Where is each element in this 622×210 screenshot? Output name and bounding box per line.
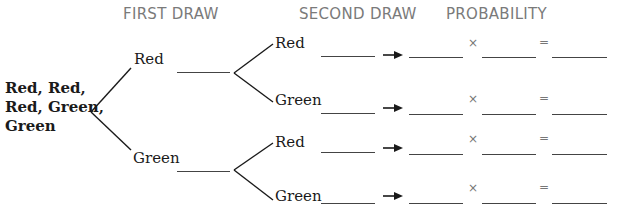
second-draw-blank[interactable] xyxy=(321,152,375,153)
arrow-right-icon xyxy=(383,144,403,152)
probability-first-blank[interactable] xyxy=(409,114,463,115)
probability-tree-diagram: FIRST DRAW SECOND DRAW PROBABILITY Red, … xyxy=(0,0,622,210)
equals-sign: = xyxy=(539,35,549,49)
probability-second-blank[interactable] xyxy=(482,203,536,204)
arrow-right-icon xyxy=(383,51,403,59)
second-draw-green-label: Green xyxy=(275,187,322,205)
probability-result-blank[interactable] xyxy=(552,154,607,155)
first-draw-green-blank[interactable] xyxy=(177,171,230,172)
second-draw-blank[interactable] xyxy=(321,113,375,114)
second-draw-green-label: Green xyxy=(275,91,322,109)
multiply-sign: × xyxy=(468,132,478,146)
first-draw-red-blank[interactable] xyxy=(177,72,230,73)
branch-red-to-red xyxy=(234,44,273,73)
probability-second-blank[interactable] xyxy=(482,57,536,58)
probability-first-blank[interactable] xyxy=(409,57,463,58)
probability-first-blank[interactable] xyxy=(409,154,463,155)
second-draw-red-label: Red xyxy=(275,34,305,52)
multiply-sign: × xyxy=(468,36,478,50)
branch-green-to-green xyxy=(234,170,273,200)
equals-sign: = xyxy=(539,91,549,105)
probability-result-blank[interactable] xyxy=(552,114,607,115)
probability-second-blank[interactable] xyxy=(482,114,536,115)
multiply-sign: × xyxy=(468,181,478,195)
equals-sign: = xyxy=(539,180,549,194)
probability-result-blank[interactable] xyxy=(552,203,607,204)
branch-green-to-red xyxy=(234,143,273,170)
second-draw-red-label: Red xyxy=(275,133,305,151)
arrow-right-icon xyxy=(383,192,403,200)
arrow-right-icon xyxy=(383,104,403,112)
second-draw-blank[interactable] xyxy=(321,203,375,204)
first-draw-red-label: Red xyxy=(134,50,164,68)
probability-result-blank[interactable] xyxy=(552,57,607,58)
branch-red-to-green xyxy=(234,73,273,102)
probability-first-blank[interactable] xyxy=(409,203,463,204)
equals-sign: = xyxy=(539,131,549,145)
probability-second-blank[interactable] xyxy=(482,154,536,155)
multiply-sign: × xyxy=(468,92,478,106)
second-draw-blank[interactable] xyxy=(321,56,375,57)
branch-root-to-green xyxy=(91,112,131,150)
first-draw-green-label: Green xyxy=(133,149,180,167)
branch-root-to-red xyxy=(91,68,131,112)
